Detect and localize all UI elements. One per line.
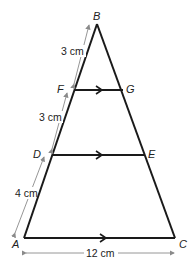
side-bc — [97, 24, 175, 238]
vertex-label-d: D — [33, 148, 41, 160]
vertex-label-a: A — [11, 238, 19, 250]
measurement-fd: 3 cm — [39, 111, 62, 123]
vertex-label-f: F — [57, 83, 65, 95]
measurement-bf: 3 cm — [61, 45, 84, 57]
vertex-label-g: G — [126, 83, 135, 95]
measurement-ac: 12 cm — [86, 247, 115, 259]
triangle-diagram: B F G D E A C 3 cm 3 cm 4 cm 12 cm — [0, 0, 195, 264]
vertex-label-b: B — [93, 10, 100, 22]
vertex-label-e: E — [148, 148, 156, 160]
measurement-da: 4 cm — [15, 187, 38, 199]
vertex-label-c: C — [179, 238, 187, 250]
